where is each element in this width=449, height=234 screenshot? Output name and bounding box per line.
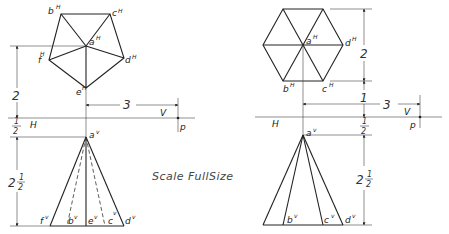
dim-3-left: 3 bbox=[123, 98, 131, 112]
label-b-front-right: b bbox=[287, 215, 293, 225]
svg-text:H: H bbox=[118, 7, 123, 14]
left-ground-line: H V p bbox=[8, 108, 195, 132]
left-pentagon-top-view: b H c H a H f H d H e H bbox=[38, 3, 137, 97]
svg-text:H: H bbox=[352, 35, 357, 42]
label-d-front-right: d bbox=[345, 215, 351, 225]
svg-text:v: v bbox=[132, 213, 136, 220]
svg-text:2: 2 bbox=[366, 180, 371, 189]
label-c-front: c bbox=[108, 216, 113, 226]
label-H-left: H bbox=[30, 120, 37, 130]
svg-text:H: H bbox=[96, 34, 101, 41]
svg-text:1: 1 bbox=[14, 117, 19, 126]
svg-text:v: v bbox=[313, 126, 317, 133]
label-a-top: a bbox=[89, 37, 95, 47]
svg-text:v: v bbox=[96, 128, 100, 135]
label-b-top: b bbox=[48, 6, 54, 16]
scale-caption: Scale FullSize bbox=[152, 170, 234, 183]
left-pyramid-front-view: a v f v b v e v c v d v bbox=[40, 128, 136, 226]
svg-text:v: v bbox=[352, 212, 356, 219]
label-V-right: V bbox=[404, 107, 411, 117]
svg-text:H: H bbox=[40, 50, 45, 57]
svg-text:H: H bbox=[56, 3, 61, 10]
label-d-front: d bbox=[125, 216, 131, 226]
label-H-right: H bbox=[272, 119, 279, 129]
dim-2-right-top: 2 bbox=[360, 47, 368, 61]
label-a-top-right: a bbox=[306, 36, 312, 46]
svg-text:v: v bbox=[94, 213, 98, 220]
svg-text:v: v bbox=[331, 212, 335, 219]
svg-text:H: H bbox=[290, 81, 295, 88]
svg-text:2: 2 bbox=[18, 183, 23, 192]
dim-1-right: 1 bbox=[360, 91, 368, 105]
label-a-front-right: a bbox=[306, 128, 312, 138]
right-ground-line: H V p bbox=[255, 107, 442, 130]
label-c-front-right: c bbox=[324, 215, 329, 225]
label-c-top-right: c bbox=[322, 84, 327, 94]
dim-2-half-right: 2 bbox=[356, 173, 364, 187]
label-p-left: p bbox=[179, 122, 186, 132]
dim-2-half-left: 2 bbox=[8, 176, 16, 190]
label-a-front: a bbox=[89, 130, 95, 140]
svg-text:v: v bbox=[74, 213, 78, 220]
label-p-right: p bbox=[409, 120, 416, 130]
label-d-top: d bbox=[125, 55, 131, 65]
svg-text:2: 2 bbox=[361, 127, 366, 136]
svg-text:1: 1 bbox=[367, 170, 372, 179]
projection-drawing: b H c H a H f H d H e H 2 1 2 2 1 2 3 bbox=[0, 0, 449, 234]
svg-text:v: v bbox=[113, 209, 117, 216]
svg-text:1: 1 bbox=[362, 117, 367, 126]
svg-text:v: v bbox=[294, 212, 298, 219]
svg-text:H: H bbox=[132, 53, 137, 60]
svg-text:2: 2 bbox=[13, 127, 18, 136]
svg-text:v: v bbox=[45, 213, 49, 220]
label-V-left: V bbox=[160, 108, 167, 118]
svg-text:H: H bbox=[329, 81, 334, 88]
right-pyramid-front-view: a v b v c v d v bbox=[263, 126, 356, 225]
label-c-top: c bbox=[112, 8, 117, 18]
label-b-top-right: b bbox=[283, 84, 289, 94]
label-d-top-right: d bbox=[345, 38, 351, 48]
svg-text:H: H bbox=[313, 33, 318, 40]
svg-text:1: 1 bbox=[19, 173, 24, 182]
dim-2-left-top: 2 bbox=[12, 89, 20, 103]
dim-3-right: 3 bbox=[383, 98, 391, 112]
